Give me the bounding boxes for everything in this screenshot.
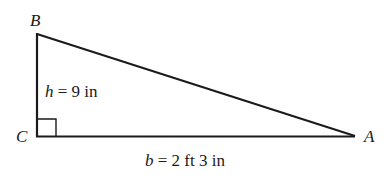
vertex-label-c: C xyxy=(16,128,27,145)
right-triangle-diagram: B C A h = 9 in b = 2 ft 3 in xyxy=(0,0,388,176)
vertex-label-b: B xyxy=(30,12,40,29)
base-variable: b xyxy=(145,151,154,170)
height-label: h = 9 in xyxy=(45,83,98,100)
base-label: b = 2 ft 3 in xyxy=(145,152,225,169)
right-angle-marker-icon xyxy=(37,119,56,136)
vertex-label-a: A xyxy=(364,128,374,145)
height-value: = 9 in xyxy=(54,82,98,101)
height-variable: h xyxy=(45,82,54,101)
base-value: = 2 ft 3 in xyxy=(154,151,225,170)
